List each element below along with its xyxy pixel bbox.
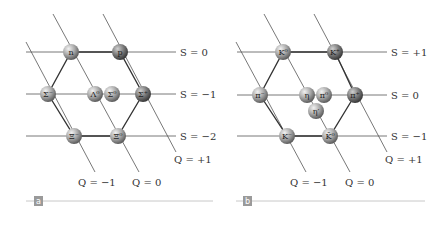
- svg-text:K̄⁰: K̄⁰: [325, 132, 334, 141]
- svg-text:Ξ⁻: Ξ⁻: [69, 132, 79, 141]
- panel-b-meson-nonet: K⁰ K⁺ π⁻ η π⁰ π⁺ η′ K⁻ K̄⁰ S = +1 S = 0 …: [236, 14, 427, 206]
- charge-line: [236, 42, 306, 172]
- particle-k-zero-bar: K̄⁰: [322, 128, 338, 144]
- svg-text:η′: η′: [313, 107, 320, 116]
- particle-pi-zero: π⁰: [316, 87, 332, 103]
- charge-label: Q = +1: [174, 154, 212, 165]
- particle-n: n: [63, 44, 79, 60]
- particle-k-plus: K⁺: [327, 44, 343, 60]
- svg-text:η: η: [305, 91, 310, 100]
- particle-eta: η: [299, 87, 315, 103]
- svg-text:p: p: [117, 48, 122, 57]
- strangeness-label: S = +1: [391, 47, 427, 58]
- particle-k-minus: K⁻: [279, 128, 295, 144]
- svg-text:π⁰: π⁰: [320, 91, 328, 100]
- panel-tag-label: a: [36, 197, 41, 206]
- svg-text:Λ⁰: Λ⁰: [90, 90, 100, 99]
- panel-a-baryon-octet: n p Σ⁻ Λ⁰ Σ⁰ Σ⁺ Ξ⁻ Ξ⁰ S = 0 S = −1 S = −…: [26, 14, 216, 206]
- charge-label: Q = +1: [385, 154, 423, 165]
- strangeness-label: S = 0: [180, 47, 208, 58]
- particle-k-zero: K⁰: [275, 44, 291, 60]
- charge-label: Q = −1: [290, 177, 328, 188]
- svg-text:Σ⁻: Σ⁻: [43, 90, 53, 99]
- strangeness-label: S = −2: [180, 131, 216, 142]
- particle-lambda: Λ⁰: [87, 86, 103, 102]
- svg-text:n: n: [68, 48, 73, 57]
- particle-sigma-plus: Σ⁺: [135, 86, 151, 102]
- svg-text:Ξ⁰: Ξ⁰: [114, 132, 123, 141]
- svg-text:π⁺: π⁺: [350, 91, 359, 100]
- svg-text:Σ⁺: Σ⁺: [138, 90, 148, 99]
- strangeness-label: S = −1: [180, 89, 216, 100]
- svg-text:K⁰: K⁰: [278, 48, 287, 57]
- particle-pi-minus: π⁻: [252, 87, 268, 103]
- particle-xi-minus: Ξ⁻: [66, 128, 82, 144]
- charge-line: [26, 42, 95, 172]
- particle-sigma-minus: Σ⁻: [40, 86, 56, 102]
- svg-text:Σ⁰: Σ⁰: [108, 90, 117, 99]
- eightfold-way-diagram: n p Σ⁻ Λ⁰ Σ⁰ Σ⁺ Ξ⁻ Ξ⁰ S = 0 S = −1 S = −…: [0, 0, 445, 226]
- particle-eta-prime: η′: [308, 103, 324, 119]
- particle-pi-plus: π⁺: [347, 87, 363, 103]
- strangeness-label: S = −1: [391, 131, 427, 142]
- panel-tag-label: b: [245, 197, 250, 206]
- charge-label: Q = 0: [132, 177, 161, 188]
- particle-p: p: [112, 44, 128, 60]
- strangeness-label: S = 0: [391, 90, 419, 101]
- svg-text:K⁺: K⁺: [330, 48, 340, 57]
- svg-text:K⁻: K⁻: [282, 132, 292, 141]
- charge-label: Q = −1: [78, 177, 116, 188]
- svg-text:π⁻: π⁻: [255, 91, 264, 100]
- charge-label: Q = 0: [345, 177, 374, 188]
- particle-xi-zero: Ξ⁰: [110, 128, 126, 144]
- particle-sigma-zero: Σ⁰: [104, 86, 120, 102]
